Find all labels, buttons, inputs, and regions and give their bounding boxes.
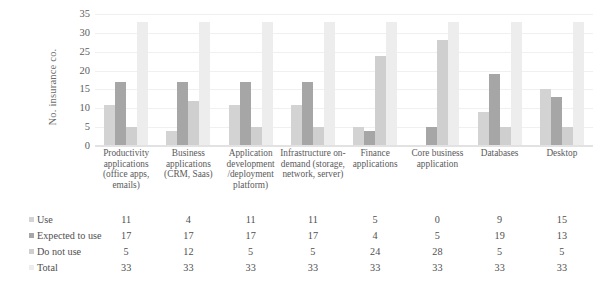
table-cell: 17 (155, 228, 221, 243)
legend-swatch-icon (29, 233, 34, 238)
table-cell: 33 (93, 260, 159, 275)
bar[interactable] (262, 22, 273, 146)
bar[interactable] (364, 131, 375, 146)
table-cell: 4 (342, 228, 408, 243)
table-cell: 33 (404, 260, 470, 275)
bar[interactable] (448, 22, 459, 146)
legend-item-total[interactable]: Total (29, 260, 58, 275)
bar[interactable] (375, 56, 386, 147)
legend-label: Do not use (37, 246, 81, 257)
bar[interactable] (426, 127, 437, 146)
bar[interactable] (511, 22, 522, 146)
gridline-0 (95, 146, 593, 147)
table-cell: 33 (280, 260, 346, 275)
bar[interactable] (500, 127, 511, 146)
table-cell: 5 (529, 244, 595, 259)
bar[interactable] (562, 127, 573, 146)
table-row: Use114111150915 (0, 212, 601, 227)
y-tick-label-5: 5 (66, 122, 90, 133)
x-axis-category-label: Databases (467, 148, 533, 159)
legend-item-use[interactable]: Use (29, 212, 53, 227)
bar[interactable] (540, 89, 551, 146)
bar[interactable] (251, 127, 262, 146)
bar[interactable] (240, 82, 251, 146)
table-cell: 28 (404, 244, 470, 259)
x-axis-category-label: Desktop (529, 148, 595, 159)
y-tick-label-10: 10 (66, 103, 90, 114)
bar-group (95, 14, 157, 146)
bar-group (469, 14, 531, 146)
x-axis-category-label: Core business application (404, 148, 470, 169)
table-cell: 5 (280, 244, 346, 259)
bar[interactable] (551, 97, 562, 146)
x-axis-category-label: Infrastructure on-demand (storage, netwo… (280, 148, 346, 180)
x-axis-baseline (95, 145, 593, 146)
bar[interactable] (104, 105, 115, 146)
bar[interactable] (313, 127, 324, 146)
bar[interactable] (353, 127, 364, 146)
bar[interactable] (291, 105, 302, 146)
bar-group (282, 14, 344, 146)
bar[interactable] (188, 101, 199, 146)
y-tick-label-35: 35 (66, 9, 90, 20)
x-axis-category-label: Finance applications (342, 148, 408, 169)
bar[interactable] (386, 22, 397, 146)
legend-swatch-icon (29, 265, 34, 270)
y-tick-label-25: 25 (66, 46, 90, 57)
table-cell: 19 (467, 228, 533, 243)
table-cell: 5 (342, 212, 408, 227)
bar[interactable] (115, 82, 126, 146)
bar[interactable] (573, 22, 584, 146)
table-cell: 33 (467, 260, 533, 275)
bar[interactable] (478, 112, 489, 146)
table-row: Do not use51255242855 (0, 244, 601, 259)
bar[interactable] (166, 131, 177, 146)
bar[interactable] (489, 74, 500, 146)
table-cell: 11 (280, 212, 346, 227)
table-row: Expected to use17171717451913 (0, 228, 601, 243)
bar-group (220, 14, 282, 146)
table-cell: 17 (93, 228, 159, 243)
bar-group (344, 14, 406, 146)
bar[interactable] (177, 82, 188, 146)
chart-data-table: Use114111150915Expected to use1717171745… (0, 212, 601, 282)
legend-swatch-icon (29, 217, 34, 222)
bar[interactable] (302, 82, 313, 146)
table-cell: 5 (218, 244, 284, 259)
legend-item-do-not-use[interactable]: Do not use (29, 244, 81, 259)
table-cell: 12 (155, 244, 221, 259)
x-axis-category-label: Productivity applications (office apps, … (93, 148, 159, 190)
table-cell: 13 (529, 228, 595, 243)
legend-label: Expected to use (37, 230, 102, 241)
bar[interactable] (229, 105, 240, 146)
bar-group (157, 14, 219, 146)
table-cell: 15 (529, 212, 595, 227)
y-axis-tick-labels: 05101520253035 (66, 14, 90, 146)
bar-group (531, 14, 593, 146)
bar[interactable] (126, 127, 137, 146)
bar[interactable] (137, 22, 148, 146)
table-cell: 11 (218, 212, 284, 227)
bar[interactable] (199, 22, 210, 146)
table-cell: 11 (93, 212, 159, 227)
plot-area (95, 14, 593, 146)
table-cell: 33 (218, 260, 284, 275)
table-cell: 33 (155, 260, 221, 275)
legend-label: Use (37, 214, 53, 225)
table-cell: 5 (404, 228, 470, 243)
legend-swatch-icon (29, 249, 34, 254)
table-cell: 5 (467, 244, 533, 259)
table-row: Total3333333333333333 (0, 260, 601, 275)
table-cell: 4 (155, 212, 221, 227)
bar[interactable] (437, 40, 448, 146)
x-axis-category-label: Application development /deployment plat… (218, 148, 284, 190)
table-cell: 17 (218, 228, 284, 243)
legend-label: Total (37, 262, 58, 273)
bar[interactable] (324, 22, 335, 146)
bar-group (406, 14, 468, 146)
grouped-bar-chart-figure: No. insurance co. 05101520253035 Product… (0, 0, 601, 289)
x-axis-category-label: Business applications (CRM, Saas) (155, 148, 221, 180)
table-cell: 33 (342, 260, 408, 275)
legend-item-expected-to-use[interactable]: Expected to use (29, 228, 102, 243)
table-cell: 33 (529, 260, 595, 275)
